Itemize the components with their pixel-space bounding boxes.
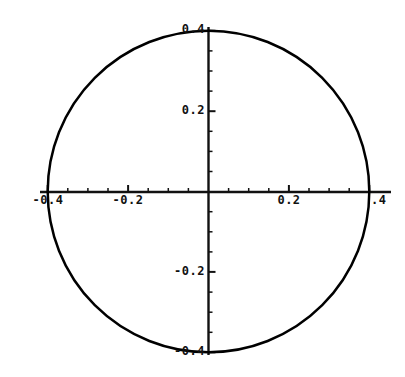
y-tick-label--0.2: -0.2 xyxy=(152,265,205,278)
plot-canvas xyxy=(0,0,405,377)
y-tick-label-0.2: 0.2 xyxy=(160,104,205,117)
y-tick-label--0.4: -0.4 xyxy=(152,345,205,358)
y-tick-label-0.4: 0.4 xyxy=(160,23,205,36)
plot-background xyxy=(0,0,405,377)
x-tick-label--0.2: -0.2 xyxy=(100,194,156,207)
x-tick-label-0.4: .4 xyxy=(371,194,397,207)
x-tick-label-0.2: 0.2 xyxy=(265,194,313,207)
x-tick-label--0.4: -0.4 xyxy=(20,194,76,207)
plot-figure: 0.4 0.2 -0.2 -0.4 -0.4 -0.2 0.2 .4 xyxy=(0,0,405,377)
